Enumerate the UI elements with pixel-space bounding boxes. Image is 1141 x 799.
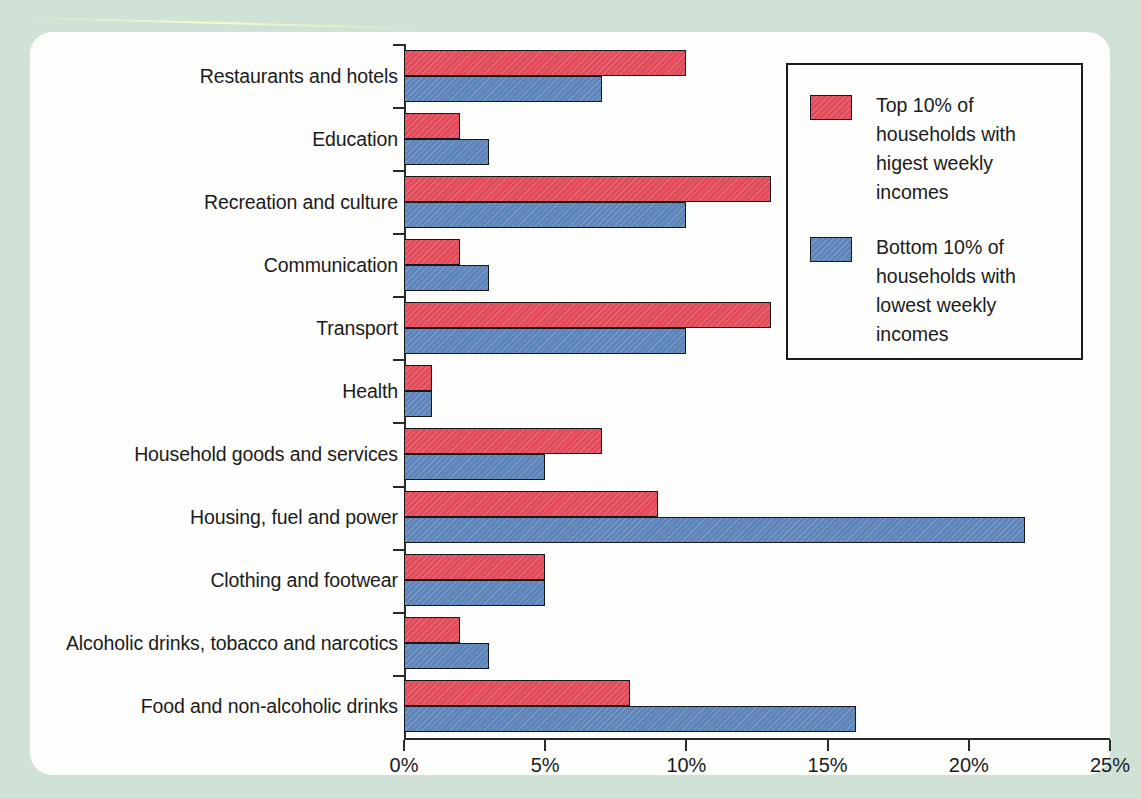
bar-row: Housing, fuel and power (404, 486, 1110, 549)
bar-top-decile (404, 491, 658, 517)
bar-top-decile (404, 554, 545, 580)
category-label: Food and non-alcoholic drinks (141, 695, 398, 718)
bar-top-decile (404, 239, 460, 265)
x-axis-tick (403, 740, 405, 751)
x-axis-tick-label: 10% (666, 754, 706, 777)
y-axis-tick (393, 359, 404, 361)
x-axis-tick (544, 740, 546, 751)
y-axis-tick (393, 486, 404, 488)
x-axis-tick-label: 5% (531, 754, 560, 777)
bar-top-decile (404, 176, 771, 202)
y-axis-tick (393, 170, 404, 172)
x-axis-tick-label: 20% (949, 754, 989, 777)
x-axis-tick-label: 0% (390, 754, 419, 777)
category-label: Restaurants and hotels (200, 64, 398, 87)
bar-top-decile (404, 428, 602, 454)
scan-streak-upper (10, 16, 430, 30)
bar-top-decile (404, 50, 686, 76)
category-label: Transport (316, 316, 398, 339)
bar-bottom-decile (404, 454, 545, 480)
bar-top-decile (404, 680, 630, 706)
bar-top-decile (404, 365, 432, 391)
bar-bottom-decile (404, 265, 489, 291)
y-axis-tick (393, 612, 404, 614)
bar-row: Food and non-alcoholic drinks (404, 675, 1110, 738)
y-axis-tick (393, 422, 404, 424)
legend-label-top: Top 10% of households with higest weekly… (876, 91, 1061, 207)
legend-swatch-top-icon (810, 95, 852, 120)
bar-row: Clothing and footwear (404, 549, 1110, 612)
x-axis-tick (968, 740, 970, 751)
legend-label-bottom: Bottom 10% of households with lowest wee… (876, 233, 1061, 349)
y-axis-tick (393, 296, 404, 298)
bar-top-decile (404, 302, 771, 328)
x-axis-tick (1109, 740, 1111, 751)
category-label: Clothing and footwear (210, 569, 398, 592)
bar-bottom-decile (404, 202, 686, 228)
category-label: Recreation and culture (204, 190, 398, 213)
legend-item-top: Top 10% of households with higest weekly… (810, 91, 1061, 207)
category-label: Education (312, 127, 398, 150)
y-axis-tick (393, 107, 404, 109)
legend-item-bottom: Bottom 10% of households with lowest wee… (810, 233, 1061, 349)
x-axis-ticks: 0%5%10%15%20%25% (404, 740, 1110, 790)
category-label: Communication (264, 253, 398, 276)
x-axis-tick (827, 740, 829, 751)
category-label: Household goods and services (134, 443, 398, 466)
bar-bottom-decile (404, 580, 545, 606)
y-axis-tick (393, 675, 404, 677)
bar-bottom-decile (404, 328, 686, 354)
bar-bottom-decile (404, 643, 489, 669)
bar-top-decile (404, 617, 460, 643)
y-axis-tick (393, 233, 404, 235)
category-label: Health (342, 379, 398, 402)
bar-row: Alcoholic drinks, tobacco and narcotics (404, 612, 1110, 675)
legend-swatch-bottom-icon (810, 237, 852, 262)
bar-row: Health (404, 359, 1110, 422)
bar-bottom-decile (404, 517, 1025, 543)
y-axis-tick (393, 44, 404, 46)
category-label: Housing, fuel and power (190, 506, 398, 529)
category-label: Alcoholic drinks, tobacco and narcotics (66, 632, 398, 655)
x-axis-tick-label: 15% (808, 754, 848, 777)
x-axis-tick (685, 740, 687, 751)
bar-bottom-decile (404, 139, 489, 165)
y-axis-tick (393, 549, 404, 551)
chart-legend: Top 10% of households with higest weekly… (786, 63, 1083, 360)
bar-row: Household goods and services (404, 422, 1110, 485)
bar-bottom-decile (404, 76, 602, 102)
bar-bottom-decile (404, 706, 856, 732)
chart-card: Restaurants and hotelsEducationRecreatio… (30, 32, 1110, 775)
bar-top-decile (404, 113, 460, 139)
x-axis-tick-label: 25% (1090, 754, 1130, 777)
bar-bottom-decile (404, 391, 432, 417)
